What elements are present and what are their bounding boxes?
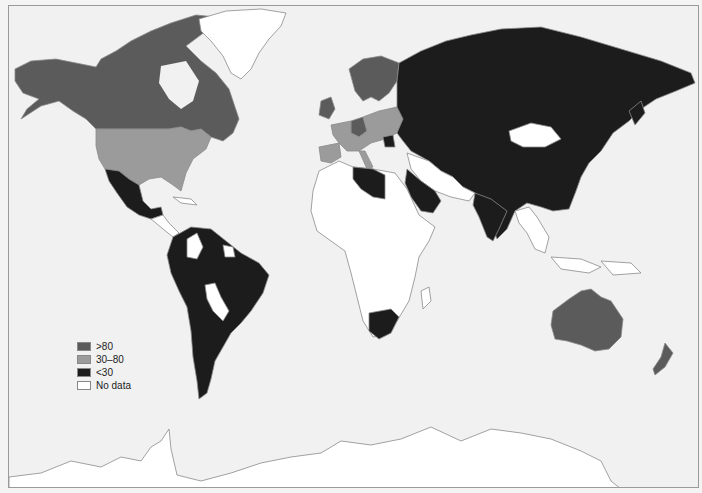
region-new-zealand [653,343,673,375]
legend-item-no-data: No data [77,379,131,392]
region-central-america [151,215,179,237]
region-scandinavia [349,56,399,101]
world-map [9,6,699,488]
region-greenland [199,9,286,79]
region-australia [551,289,623,351]
legend-label: No data [96,380,131,391]
legend-swatch [77,342,91,351]
map-legend: >80 30–80 <30 No data [77,340,131,392]
legend-item-30-80: 30–80 [77,353,131,366]
legend-item-lt30: <30 [77,366,131,379]
region-se-asia [515,207,549,253]
legend-swatch [77,381,91,390]
legend-swatch [77,355,91,364]
legend-label: >80 [96,341,113,352]
legend-swatch [77,368,91,377]
region-iberia [319,143,341,163]
region-italy [359,151,373,169]
region-romania [383,135,395,147]
legend-label: <30 [96,367,113,378]
legend-label: 30–80 [96,354,124,365]
legend-item-gt80: >80 [77,340,131,353]
region-guianas [223,245,235,257]
region-antarctica [9,427,621,488]
map-frame: >80 30–80 <30 No data [8,5,699,488]
region-uk [319,97,335,119]
region-south-africa [369,309,399,339]
